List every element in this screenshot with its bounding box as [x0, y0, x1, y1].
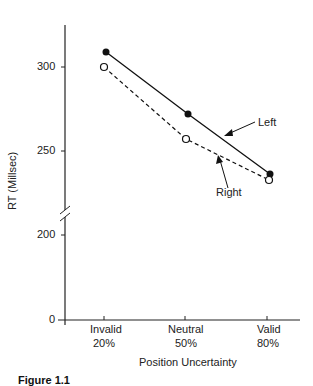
annotation-right: Right [216, 186, 242, 198]
x-tick-invalid-pct: 20% [93, 337, 115, 349]
y-tick-0: 0 [49, 313, 55, 325]
point-right-neutral [183, 136, 190, 143]
point-left-neutral [185, 111, 192, 118]
x-tick-neutral-pct: 50% [175, 337, 197, 349]
series-right-line [104, 67, 269, 180]
y-tick-300: 300 [37, 60, 55, 72]
x-tick-invalid: Invalid [90, 323, 122, 335]
x-axis-label: Position Uncertainty [139, 356, 237, 368]
x-tick-valid: Valid [257, 323, 281, 335]
figure-caption: Figure 1.1 [18, 374, 70, 386]
x-tick-valid-pct: 80% [257, 337, 279, 349]
point-left-invalid [103, 49, 110, 56]
y-axis-label: RT (Millsec) [6, 152, 18, 210]
point-right-valid [266, 177, 273, 184]
y-tick-250: 250 [37, 144, 55, 156]
point-right-invalid [101, 64, 108, 71]
x-tick-neutral: Neutral [168, 323, 203, 335]
right-arrow [220, 160, 228, 188]
annotation-left: Left [258, 116, 276, 128]
y-tick-200: 200 [37, 228, 55, 240]
